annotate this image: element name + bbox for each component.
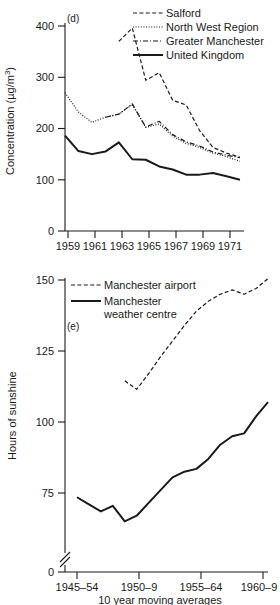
panel-d-x-tick-label-1961: 1961 (83, 240, 107, 252)
panel-d-y-tick-label-400: 400 (36, 20, 54, 32)
panel-e-x-ticks (77, 572, 263, 579)
panel-d-legend-label-salford: Salford (166, 7, 201, 19)
panel-e-y-tick-label-100: 100 (36, 416, 54, 428)
panel-d-x-ticks (68, 231, 230, 238)
panel-e-y-tick-labels: 150 125 100 75 0 (36, 274, 54, 578)
panel-e-x-tick-labels: 1945–54 1950–9 1955–64 1960–9 (56, 581, 278, 593)
panel-e-legend-label-manchester-airport: Manchester airport (104, 279, 196, 291)
panel-e: Hours of sunshine (e) 150 125 (6, 274, 277, 605)
panel-e-y-ticks (58, 280, 65, 572)
panel-d-y-axis-title-main: Concentration (µg/m (4, 75, 16, 175)
panel-d-x-tick-label-1971: 1971 (218, 240, 242, 252)
panel-d-series-united-kingdom (65, 136, 240, 180)
panel-d: Concentration (µg/m3) (d) 400 300 200 10… (3, 7, 264, 252)
panel-d-x-tick-label-1967: 1967 (164, 240, 188, 252)
panel-e-x-tick-label-1950-9: 1950–9 (121, 581, 158, 593)
panel-d-y-tick-label-100: 100 (36, 174, 54, 186)
svg-text:Concentration (µg/m3): Concentration (µg/m3) (3, 67, 16, 175)
panel-d-x-tick-label-1969: 1969 (191, 240, 215, 252)
figure-svg: Concentration (µg/m3) (d) 400 300 200 10… (0, 0, 280, 605)
figure-container: Concentration (µg/m3) (d) 400 300 200 10… (0, 0, 280, 605)
panel-d-y-tick-label-0: 0 (48, 225, 54, 237)
panel-d-y-axis-title-tail: ) (4, 67, 16, 71)
panel-e-y-tick-label-125: 125 (36, 345, 54, 357)
panel-d-legend-label-greater-manchester: Greater Manchester (166, 35, 264, 47)
panel-e-y-tick-label-150: 150 (36, 274, 54, 286)
panel-d-y-ticks (58, 26, 65, 231)
panel-d-y-axis-title: Concentration (µg/m3) (3, 67, 16, 175)
panel-e-y-tick-label-75: 75 (42, 487, 54, 499)
panel-d-series-north-west-region (65, 93, 240, 162)
panel-d-y-tick-label-300: 300 (36, 71, 54, 83)
panel-d-legend: Salford North West Region Greater Manche… (133, 7, 264, 61)
panel-d-y-tick-label-200: 200 (36, 122, 54, 134)
panel-e-x-tick-label-1955-64: 1955–64 (180, 581, 223, 593)
panel-e-axis-break-icon (60, 552, 70, 567)
panel-e-legend: Manchester airport Manchester weather ce… (71, 279, 196, 320)
panel-e-legend-label-manchester-weather-centre-line1: Manchester (104, 295, 162, 307)
panel-d-x-tick-label-1963: 1963 (110, 240, 134, 252)
panel-e-legend-label-manchester-weather-centre-line2: weather centre (103, 308, 177, 320)
panel-e-y-axis-title: Hours of sunshine (6, 371, 18, 460)
panel-d-series-salford (119, 28, 240, 157)
panel-e-x-tick-label-1945-54: 1945–54 (56, 581, 99, 593)
panel-d-x-tick-label-1959: 1959 (56, 240, 80, 252)
panel-e-label: (e) (67, 321, 79, 332)
panel-e-y-tick-label-0: 0 (48, 566, 54, 578)
panel-d-x-tick-label-1965: 1965 (137, 240, 161, 252)
panel-e-series-manchester-weather-centre (77, 402, 268, 521)
panel-d-legend-label-north-west-region: North West Region (166, 21, 259, 33)
panel-d-label: (d) (67, 13, 79, 24)
panel-d-legend-label-united-kingdom: United Kingdom (166, 49, 244, 61)
panel-d-y-tick-labels: 400 300 200 100 0 (36, 20, 54, 237)
panel-e-x-axis-title: 10 year moving averages (98, 594, 222, 605)
panel-d-x-tick-labels: 1959 1961 1963 1965 1967 1969 1971 (56, 240, 242, 252)
panel-e-x-tick-label-1960-9: 1960–9 (241, 581, 278, 593)
